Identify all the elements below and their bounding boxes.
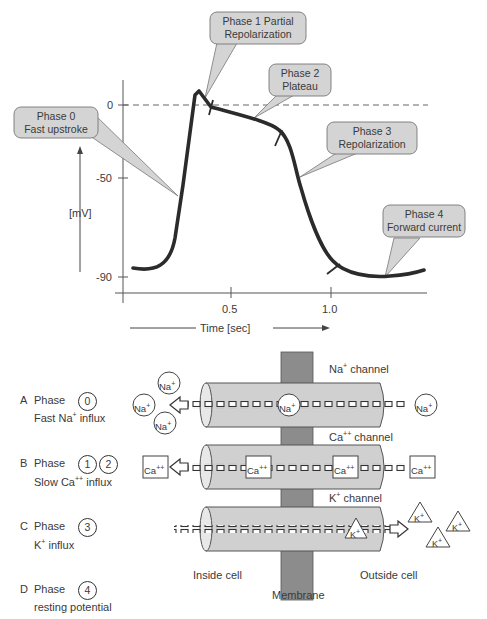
action-potential-curve [133,91,424,276]
phase-number-badge: 1 [78,455,97,474]
arrow-right-icon [390,521,408,537]
x-axis-title: Time [sec] [200,321,250,335]
x-label-1.0: 1.0 [322,302,337,316]
legend-desc-a: Fast Na+ influx [34,411,105,424]
ca-ion-label: Ca++ [334,461,354,478]
na-ion-label: Na+ [134,399,150,416]
y-label-minus50: -50 [96,171,112,185]
arrow-left-icon [170,397,188,413]
legend-desc-d: resting potential [34,600,112,613]
ca-channel [206,445,384,489]
outside-cell-label: Outside cell [360,568,417,582]
callout-pointer-phase1 [205,38,240,98]
phase-number-badge: 2 [99,455,118,474]
legend-desc-b: Slow Ca++ influx [34,475,112,488]
callout-pointer-phase3 [300,152,360,177]
phase-marker-2-3 [275,130,282,146]
phase-number-badge: 4 [78,581,97,600]
callout-phase4-text: Phase 4 Forward current [383,208,465,233]
ca-ion-label: Ca++ [247,461,267,478]
callout-phase2-text: Phase 2 Plateau [269,67,331,92]
y-axis-unit: [mV] [69,206,92,220]
na-ion-label: Na+ [416,399,432,416]
k-ion-label: K+ [350,525,360,542]
arrow-up-icon [77,146,83,154]
na-ion-label: Na+ [155,417,171,434]
callout-pointer-phase2 [254,94,296,118]
k-channel-label: K+ channel [329,488,382,505]
k-ion-label: K+ [414,509,424,526]
y-label-0: 0 [107,98,113,112]
na-ion-label: Na+ [279,399,295,416]
membrane-bar [281,352,313,600]
action-potential-graph [0,0,487,340]
ca-channel-label: Ca++ channel [329,427,393,444]
legend-row-c: CPhase3 [20,518,99,537]
legend-row-b: BPhase12 [20,455,120,474]
phase-number-badge: 3 [78,518,97,537]
x-label-0.5: 0.5 [222,302,237,316]
k-ion-label: K+ [452,518,462,535]
arrow-right-icon [322,325,330,331]
y-label-minus90: -90 [96,270,112,284]
legend-desc-c: K+ influx [34,538,74,551]
ca-ion-label: Ca++ [144,461,164,478]
legend-row-a: APhase0 [20,392,99,411]
na-ion-label: Na+ [159,377,175,394]
membrane-label: Membrane [272,588,325,602]
phase-number-badge: 0 [78,392,97,411]
callout-phase1-text: Phase 1 Partial Repolarization [210,15,306,40]
k-ion-label: K+ [432,534,442,551]
legend-row-d: DPhase4 [20,581,99,600]
na-channel-label: Na+ channel [329,359,389,376]
arrow-left-icon [170,459,188,475]
ca-ion-label: Ca++ [411,461,431,478]
inside-cell-label: Inside cell [193,568,242,582]
callout-phase0-text: Phase 0 Fast upstroke [14,110,98,135]
callout-phase3-text: Phase 3 Repolarization [327,125,417,150]
phase-marker-3-4 [327,264,340,274]
